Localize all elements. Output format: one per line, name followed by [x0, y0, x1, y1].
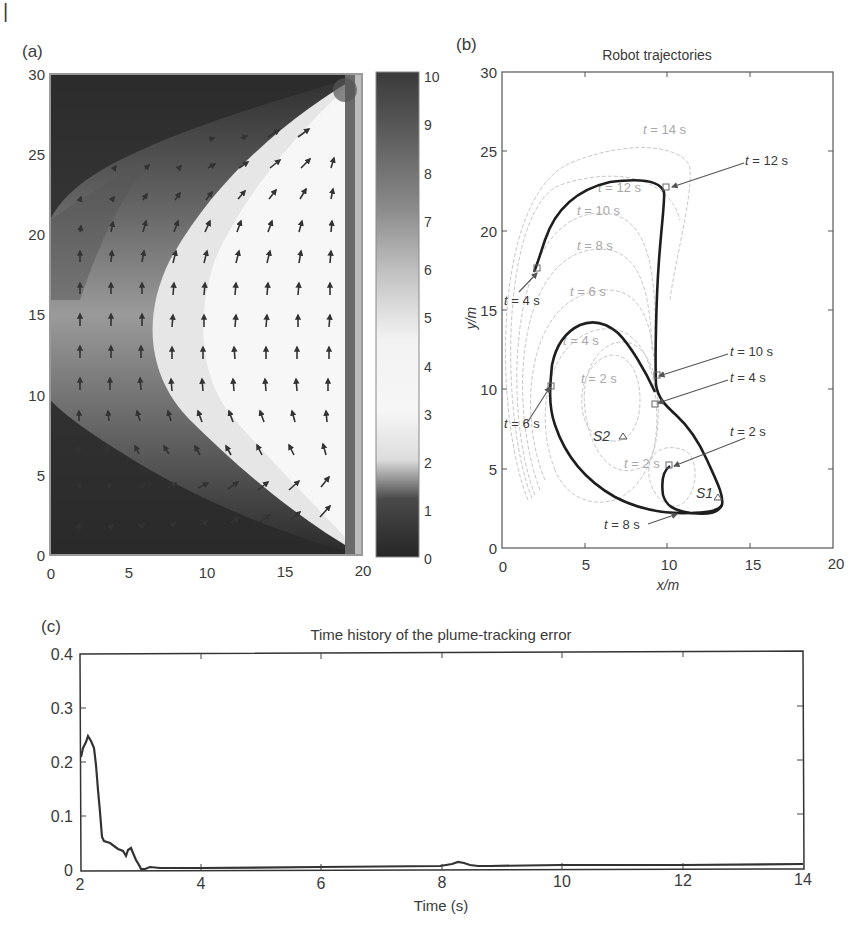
svg-text:t = 14 s: t = 14 s — [643, 122, 687, 137]
svg-text:5: 5 — [489, 461, 497, 478]
xtick: 15 — [277, 563, 294, 580]
svg-text:10: 10 — [661, 556, 678, 573]
svg-text:t = 4 s: t = 4 s — [730, 370, 766, 385]
svg-text:25: 25 — [480, 143, 497, 160]
xtick: 5 — [125, 564, 133, 581]
plot-b-frame — [502, 72, 833, 548]
svg-text:t = 2 s: t = 2 s — [730, 424, 766, 439]
svg-text:t = 2 s: t = 2 s — [624, 456, 660, 471]
xtick: 0 — [47, 565, 55, 582]
panel-a-yaxis: 30 25 20 15 10 5 0 — [28, 66, 45, 564]
ytick: 25 — [28, 146, 45, 163]
svg-text:5: 5 — [582, 556, 590, 573]
source-s2-label: S2 — [593, 428, 610, 444]
panel-b-ylabel: y/m — [463, 306, 479, 330]
svg-text:6: 6 — [424, 262, 432, 278]
error-series-line — [81, 736, 803, 869]
panel-c-title: Time history of the plume-tracking error — [310, 626, 571, 643]
ytick: 0 — [37, 547, 45, 564]
panel-b: (b) Robot trajectories 30 25 20 15 10 5 … — [456, 35, 844, 593]
svg-text:0.3: 0.3 — [51, 700, 73, 717]
svg-text:t = 6 s: t = 6 s — [570, 284, 606, 299]
annotation-labels: t = 12 s t = 4 s t = 10 s t = 4 s t = 6 … — [504, 153, 789, 532]
svg-text:4: 4 — [424, 359, 432, 375]
xtick: 20 — [355, 562, 372, 579]
ytick: 30 — [28, 66, 45, 83]
panel-c-yaxis: 0.4 0.3 0.2 0.1 0 — [51, 646, 73, 879]
svg-text:0: 0 — [489, 540, 497, 557]
colorbar: 10 9 8 7 6 5 4 3 2 1 0 — [376, 69, 440, 567]
svg-text:1: 1 — [424, 503, 432, 519]
svg-text:10: 10 — [480, 381, 497, 398]
source-s1-label: S1 — [696, 485, 713, 501]
svg-text:20: 20 — [828, 555, 845, 572]
svg-text:0: 0 — [424, 551, 432, 567]
svg-text:2: 2 — [424, 455, 432, 471]
svg-text:20: 20 — [480, 223, 497, 240]
svg-text:t = 6 s: t = 6 s — [504, 416, 540, 431]
svg-text:2: 2 — [76, 876, 85, 893]
svg-text:0.4: 0.4 — [51, 646, 73, 663]
svg-text:t = 8 s: t = 8 s — [604, 517, 640, 532]
ytick: 20 — [28, 226, 45, 243]
svg-text:0: 0 — [64, 862, 73, 879]
plot-c-frame — [80, 651, 804, 871]
colorbar-ticks: 10 9 8 7 6 5 4 3 2 1 0 — [424, 69, 440, 567]
svg-text:15: 15 — [480, 302, 497, 319]
svg-text:t = 2 s: t = 2 s — [581, 371, 617, 386]
svg-text:3: 3 — [424, 407, 432, 423]
panel-b-xaxis: 0 5 10 15 20 — [499, 555, 845, 575]
svg-text:12: 12 — [674, 872, 692, 889]
panel-a-label: (a) — [22, 42, 43, 61]
ytick: 10 — [28, 387, 45, 404]
svg-text:8: 8 — [438, 874, 447, 891]
concentration-heatmap — [50, 74, 362, 555]
svg-text:t = 12 s: t = 12 s — [745, 153, 789, 168]
panel-b-xlabel: x/m — [656, 577, 680, 593]
svg-text:0.2: 0.2 — [51, 754, 73, 771]
panel-b-title: Robot trajectories — [602, 47, 712, 63]
svg-text:6: 6 — [317, 875, 326, 892]
svg-text:5: 5 — [424, 310, 432, 326]
panel-b-label: (b) — [456, 35, 477, 54]
svg-text:t = 4 s: t = 4 s — [563, 333, 599, 348]
panel-b-ticks — [502, 72, 833, 548]
panel-c-label: (c) — [41, 617, 61, 636]
svg-text:7: 7 — [424, 214, 432, 230]
ytick: 5 — [37, 467, 45, 484]
ytick: 15 — [28, 306, 45, 323]
svg-text:4: 4 — [197, 875, 206, 892]
svg-text:9: 9 — [424, 117, 432, 133]
panel-c-xlabel: Time (s) — [414, 897, 468, 914]
svg-text:10: 10 — [553, 873, 571, 890]
panel-c-ticks — [80, 651, 803, 870]
svg-text:10: 10 — [424, 69, 440, 85]
panel-c: (c) Time history of the plume-tracking e… — [41, 617, 812, 914]
page-marker: | — [3, 0, 8, 22]
svg-text:0: 0 — [499, 558, 507, 575]
svg-text:15: 15 — [745, 556, 762, 573]
xtick: 10 — [199, 564, 216, 581]
svg-text:t = 4 s: t = 4 s — [504, 293, 540, 308]
panel-c-xaxis: 2 4 6 8 10 12 14 — [76, 871, 812, 893]
panel-b-yaxis: 30 25 20 15 10 5 0 — [480, 64, 497, 557]
panel-a-xaxis: 0 5 10 15 20 — [47, 562, 372, 582]
source-s2-icon — [619, 433, 627, 439]
svg-text:8: 8 — [424, 166, 432, 182]
svg-text:0.1: 0.1 — [51, 808, 73, 825]
svg-text:t = 10 s: t = 10 s — [730, 344, 774, 359]
plume-contours — [505, 148, 695, 507]
figure: | (a) — [0, 0, 857, 944]
contour-labels: t = 14 s t = 12 s t = 10 s t = 8 s t = 6… — [563, 122, 687, 471]
svg-text:t = 8 s: t = 8 s — [577, 238, 613, 253]
svg-text:30: 30 — [480, 64, 497, 81]
svg-text:t = 10 s: t = 10 s — [577, 203, 621, 218]
panel-a: (a) — [22, 42, 440, 582]
svg-text:14: 14 — [794, 871, 812, 888]
